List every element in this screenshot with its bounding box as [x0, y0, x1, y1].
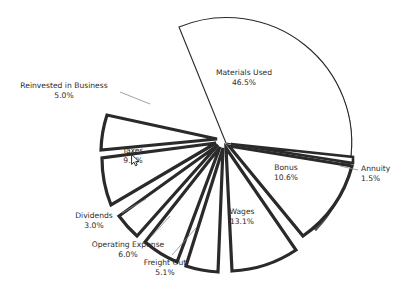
slice-label-name: Wages: [218, 207, 266, 217]
slice-label-percent: 5.1%: [136, 268, 194, 278]
slice-label-name: Annuity: [361, 164, 405, 174]
slice-label-name: Reinvested in Business: [6, 81, 122, 91]
slice-label-name: Dividends: [66, 211, 122, 221]
pie-slices: [101, 18, 353, 272]
slice-label-taxes: Taxes 9.2%: [112, 146, 154, 166]
slice-label-name: Taxes: [112, 146, 154, 156]
leader-line-reinvested: [120, 92, 150, 104]
slice-label-dividends: Dividends 3.0%: [66, 211, 122, 231]
slice-label-annuity: Annuity 1.5%: [361, 164, 405, 184]
slice-label-reinvested-in-business: Reinvested in Business 5.0%: [6, 81, 122, 101]
pie-chart-page: Annual Cost Breakdown: [0, 0, 410, 295]
slice-label-percent: 9.2%: [112, 156, 154, 166]
slice-label-percent: 1.5%: [361, 174, 405, 184]
slice-label-materials-used: Materials Used 46.5%: [196, 68, 292, 88]
slice-label-name: Operating Expense: [83, 240, 173, 250]
slice-label-bonus: Bonus 10.6%: [261, 163, 311, 183]
slice-label-percent: 46.5%: [196, 78, 292, 88]
slice-label-wages: Wages 13.1%: [218, 207, 266, 227]
slice-label-percent: 13.1%: [218, 217, 266, 227]
slice-label-percent: 5.0%: [6, 91, 122, 101]
slice-label-name: Materials Used: [196, 68, 292, 78]
slice-label-freight-out: Freight Out 5.1%: [136, 258, 194, 278]
pie-chart-canvas: [0, 0, 410, 295]
slice-label-percent: 3.0%: [66, 221, 122, 231]
slice-label-name: Bonus: [261, 163, 311, 173]
slice-label-name: Freight Out: [136, 258, 194, 268]
slice-label-percent: 10.6%: [261, 173, 311, 183]
